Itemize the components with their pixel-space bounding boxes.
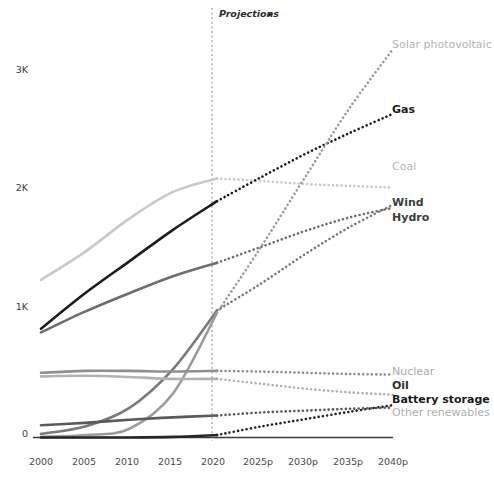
x-tick-2030: 2030p [288,456,318,467]
series-oil [41,376,393,395]
history-line [41,376,217,379]
series-label-solar: Solar photovoltaic [392,38,492,51]
projection-line [217,205,393,311]
x-tick-2040: 2040p [378,456,408,467]
chart-container: 3K 2K 1K 0 2000 2005 2010 2015 2020 2025… [0,0,494,485]
projections-arrow-icon: ▸ [268,8,273,19]
series-label-gas: Gas [392,103,415,116]
projection-line [217,371,393,375]
series-label-wind: Wind [392,196,424,209]
history-line [41,263,217,333]
series-label-battery: Battery storage [392,393,490,406]
series-layer [41,49,393,438]
projection-line [217,408,393,416]
history-line [41,179,217,280]
x-tick-2015: 2015 [158,456,182,467]
series-label-oil: Oil [392,379,409,392]
series-coal [41,179,393,280]
projection-line [217,114,393,201]
x-tick-2005: 2005 [72,456,96,467]
x-tick-2025: 2025p [243,456,273,467]
y-tick-3k: 3K [16,64,29,75]
x-tick-2010: 2010 [115,456,139,467]
history-line [41,416,217,426]
y-tick-0: 0 [22,428,28,439]
y-tick-2k: 2K [16,182,29,193]
projection-line [217,405,393,435]
series-other-renewables [41,408,393,426]
y-tick-1k: 1K [16,301,29,312]
x-tick-2000: 2000 [29,456,53,467]
line-chart: 3K 2K 1K 0 2000 2005 2010 2015 2020 2025… [0,0,494,485]
series-label-coal: Coal [392,160,416,173]
series-label-hydro: Hydro [392,211,430,224]
x-tick-2035: 2035p [333,456,363,467]
x-tick-2020: 2020 [201,456,225,467]
series-gas [41,114,393,329]
projection-line [217,379,393,395]
history-line [41,371,217,373]
series-label-other-renewables: Other renewables [392,406,490,419]
series-label-nuclear: Nuclear [392,365,435,378]
series-wind [41,205,393,434]
series-nuclear [41,371,393,375]
